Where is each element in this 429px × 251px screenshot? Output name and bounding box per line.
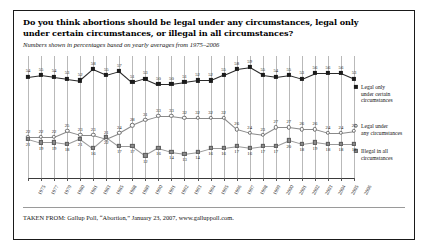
data-label-illegal-all: 16 [208,151,213,156]
legend-label-illegal-all: Illegal in all circumstances [361,148,393,161]
x-axis-tick [328,178,329,181]
data-point-legal-only-certain [130,80,134,84]
legend-marker-legal-only-certain [354,85,358,89]
data-point-illegal-all [117,144,121,148]
data-label-legal-any: 24 [326,125,331,130]
data-label-legal-any: 22 [39,129,44,134]
data-point-illegal-all [287,138,291,142]
x-axis-tick [145,178,146,181]
data-point-illegal-all [313,140,317,144]
data-point-illegal-all [143,153,147,157]
data-label-legal-any: 32 [208,110,213,115]
x-axis-tick [341,178,342,181]
data-point-illegal-all [91,146,95,150]
data-label-legal-any: 33 [169,108,174,113]
gridline [93,56,94,178]
page-title: Do you think abortions should be legal u… [23,17,368,38]
data-point-illegal-all [208,146,212,150]
data-label-illegal-all: 14 [195,155,200,160]
data-label-illegal-all: 17 [234,149,239,154]
data-label-legal-any: 22 [26,129,31,134]
data-label-illegal-all: 17 [117,149,122,154]
data-label-legal-any: 22 [52,129,57,134]
data-label-illegal-all: 16 [221,151,226,156]
x-axis-label: 1980 [76,184,86,196]
data-label-illegal-all: 14 [169,155,174,160]
data-point-illegal-all [169,150,173,154]
data-point-legal-only-certain [52,75,56,79]
legend-label-legal-any: Legal under any circumstances [361,123,402,136]
data-point-legal-only-certain [91,67,95,71]
x-axis-label: 1991 [167,184,177,196]
x-axis-label: 1975 [36,184,46,196]
data-label-legal-only-certain: 55 [260,67,265,72]
x-axis-tick [54,178,55,181]
x-axis-label: 2001 [297,184,307,196]
data-label-legal-any: 24 [339,125,344,130]
data-point-legal-only-certain [65,76,69,80]
data-label-legal-only-certain: 56 [326,65,331,70]
x-axis-label: 1979 [62,184,72,196]
data-label-illegal-all: 21 [26,142,31,147]
data-label-illegal-all: 16 [156,151,161,156]
data-label-illegal-all: 19 [52,146,57,151]
x-axis-label: 1981 [89,184,99,196]
x-axis-label: 1999 [271,184,281,196]
x-axis-label: 1993 [193,184,203,196]
data-label-legal-only-certain: 58 [234,61,239,66]
data-label-legal-only-certain: 50 [156,76,161,81]
data-point-legal-only-certain [104,73,108,77]
x-axis-tick [41,178,42,181]
data-label-legal-only-certain: 55 [221,67,226,72]
data-label-illegal-all: 17 [130,149,135,154]
data-label-illegal-all: 18 [352,147,357,152]
x-axis-tick [171,178,172,181]
data-label-legal-only-certain: 59 [247,59,252,64]
data-point-legal-only-certain [274,75,278,79]
data-label-illegal-all: 18 [339,147,344,152]
data-label-illegal-all: 12 [143,159,148,164]
x-axis-tick [224,178,225,181]
data-label-legal-any: 32 [195,110,200,115]
data-label-legal-any: 28 [130,117,135,122]
x-axis-label: 1985 [115,184,125,196]
data-point-illegal-all [65,142,69,146]
x-axis-label: 1995 [219,184,229,196]
data-point-legal-only-certain [143,76,147,80]
data-point-legal-only-certain [326,71,330,75]
data-label-legal-only-certain: 54 [26,68,31,73]
data-label-legal-only-certain: 51 [130,74,135,79]
data-point-legal-only-certain [222,73,226,77]
x-axis-tick [250,178,251,181]
data-label-legal-any: 24 [247,125,252,130]
x-axis-tick [354,178,355,181]
data-label-legal-any: 26 [299,121,304,126]
chart-subtitle: Numbers shown in percentages based on ye… [23,41,383,48]
x-axis-tick [211,178,212,181]
data-point-legal-only-certain [195,78,199,82]
data-point-legal-only-certain [156,82,160,86]
data-label-illegal-all: 19 [313,146,318,151]
data-label-legal-only-certain: 53 [352,70,357,75]
data-point-illegal-all [352,142,356,146]
x-axis-label: 2005 [349,184,359,196]
data-label-legal-any: 23 [78,127,83,132]
x-axis-label: 1998 [258,184,268,196]
x-axis-label: 1983 [102,184,112,196]
x-axis-tick [93,178,94,181]
data-point-illegal-all [26,136,30,140]
data-point-legal-only-certain [117,69,121,73]
x-axis-tick [28,178,29,181]
data-point-legal-only-certain [248,65,252,69]
x-axis-tick [302,178,303,181]
data-label-legal-only-certain: 58 [91,61,96,66]
data-label-legal-only-certain: 52 [195,72,200,77]
data-label-legal-only-certain: 52 [78,72,83,77]
x-axis-tick [276,178,277,181]
data-label-legal-any: 31 [143,112,148,117]
x-axis-label: 2000 [284,184,294,196]
x-axis-label: 1988 [128,184,138,196]
figure-frame: Do you think abortions should be legal u… [13,10,415,240]
x-axis-label: 1996 [232,184,242,196]
data-label-legal-only-certain: 54 [52,68,57,73]
